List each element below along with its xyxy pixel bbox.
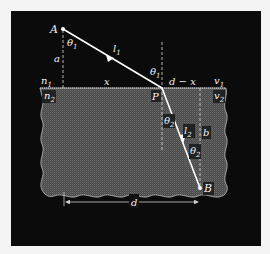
label-theta1-top: θ1 <box>67 37 78 51</box>
label-l1: l1 <box>113 43 121 57</box>
label-n1: n1 <box>41 75 52 89</box>
label-a: a <box>54 53 60 64</box>
label-d: d <box>131 197 137 208</box>
label-B: B <box>203 182 212 195</box>
label-b: b <box>203 127 209 138</box>
point-A <box>61 27 65 31</box>
refraction-diagram: A θ1 l1 a n1 x θ1 d − x v1 n2 P v2 θ2 l2… <box>0 0 270 254</box>
label-d-minus-x: d − x <box>169 76 196 87</box>
label-v1: v1 <box>214 75 224 89</box>
label-x: x <box>104 76 110 87</box>
point-B <box>198 186 202 190</box>
label-theta1-at-P: θ1 <box>150 66 161 80</box>
ray-l1-arrow <box>106 55 114 62</box>
label-A: A <box>49 23 58 36</box>
label-P: P <box>151 91 159 102</box>
medium-2-region <box>40 88 227 197</box>
